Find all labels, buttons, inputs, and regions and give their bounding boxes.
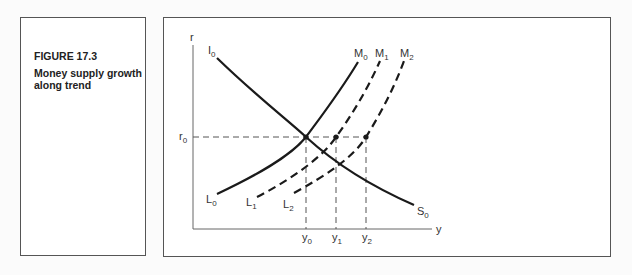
lm1-curve bbox=[257, 61, 380, 197]
y1-tick-label: y1 bbox=[332, 231, 343, 246]
l1-label: L1 bbox=[246, 196, 257, 211]
s0-label: S0 bbox=[417, 205, 429, 220]
lm2-curve bbox=[294, 61, 404, 193]
y-axis-label: r bbox=[190, 31, 194, 43]
lm0-curve bbox=[217, 62, 358, 194]
l0-label: L0 bbox=[206, 193, 217, 208]
equilibrium-point-2 bbox=[363, 134, 368, 139]
l2-label: L2 bbox=[283, 198, 294, 213]
is-lm-diagram: r y r0 I0 S0 L0 M0 L1 M1 L2 M2 y0 y1 y2 bbox=[0, 0, 632, 275]
is-curve bbox=[217, 58, 414, 205]
m2-label: M2 bbox=[400, 47, 414, 62]
r0-label: r0 bbox=[179, 130, 188, 145]
m0-label: M0 bbox=[354, 47, 368, 62]
m1-label: M1 bbox=[375, 47, 389, 62]
y0-tick-label: y0 bbox=[302, 231, 313, 246]
x-axis-label: y bbox=[436, 223, 442, 235]
equilibrium-point-1 bbox=[333, 134, 338, 139]
equilibrium-point-0 bbox=[303, 134, 308, 139]
i0-label: I0 bbox=[208, 44, 216, 59]
y2-tick-label: y2 bbox=[362, 231, 373, 246]
